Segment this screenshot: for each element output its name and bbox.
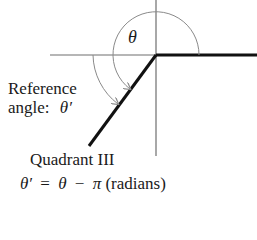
reference-label-line1: Reference xyxy=(8,80,77,98)
formula-lhs: θ′ xyxy=(20,174,32,193)
reference-label-prefix: angle: xyxy=(8,98,50,117)
formula-pi: π xyxy=(93,174,102,193)
theta-label: θ xyxy=(128,28,137,46)
formula-minus: − xyxy=(75,174,85,193)
formula-equals: = xyxy=(40,174,50,193)
reference-label-line2: angle: θ′ xyxy=(8,99,72,117)
formula-theta: θ xyxy=(58,174,66,193)
quadrant-label: Quadrant III xyxy=(30,151,115,169)
formula: θ′ = θ − π (radians) xyxy=(20,175,166,193)
terminal-side xyxy=(89,55,156,146)
formula-unit: (radians) xyxy=(105,174,165,193)
reference-symbol: θ′ xyxy=(60,98,72,117)
reference-angle-arc xyxy=(93,55,118,104)
